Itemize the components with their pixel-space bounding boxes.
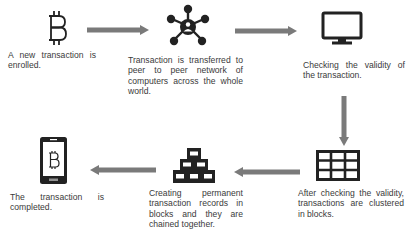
arrow-step3-to-step4 [339, 96, 349, 146]
network-hub-icon [164, 4, 212, 48]
step-2-label: Transaction is transferred to peer to pe… [128, 55, 243, 97]
grid-blocks-icon [316, 150, 360, 181]
step-1-label: A new transaction is enrolled. [8, 50, 96, 71]
arrow-step1-to-step2 [87, 25, 149, 35]
bitcoin-icon [45, 10, 69, 46]
arrow-step2-to-step3 [235, 26, 297, 36]
arrow-step4-to-step5 [234, 167, 300, 177]
stacked-blocks-icon [173, 148, 215, 184]
step-4-label: After checking the validity, transaction… [298, 188, 404, 219]
step-6-label: The transaction is completed. [10, 192, 104, 213]
arrow-step5-to-step6 [90, 165, 156, 175]
mobile-bitcoin-icon [40, 137, 67, 184]
step-5-label: Creating permanent transaction records i… [149, 188, 243, 230]
monitor-icon [321, 11, 363, 46]
step-3-label: Checking the validity of the transaction… [303, 60, 405, 81]
